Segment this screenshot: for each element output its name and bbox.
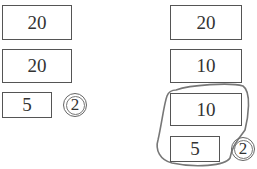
left-box-3: 5 (2, 92, 52, 118)
left-box-2-value: 20 (28, 55, 47, 77)
right-box-1: 20 (170, 5, 242, 40)
right-circled-count: 2 (231, 137, 255, 161)
right-box-4: 5 (170, 136, 220, 162)
right-box-2: 10 (170, 49, 242, 83)
left-box-1: 20 (2, 5, 72, 40)
right-box-2-value: 10 (197, 55, 216, 77)
right-box-3-value: 10 (197, 99, 216, 121)
right-circled-count-value: 2 (239, 139, 248, 159)
left-box-2: 20 (2, 49, 72, 83)
left-box-1-value: 20 (28, 12, 47, 34)
right-box-1-value: 20 (197, 12, 216, 34)
left-circled-count: 2 (63, 93, 87, 117)
left-circled-count-value: 2 (71, 95, 80, 115)
right-box-4-value: 5 (190, 138, 200, 160)
right-box-3: 10 (170, 93, 242, 126)
left-box-3-value: 5 (22, 94, 32, 116)
